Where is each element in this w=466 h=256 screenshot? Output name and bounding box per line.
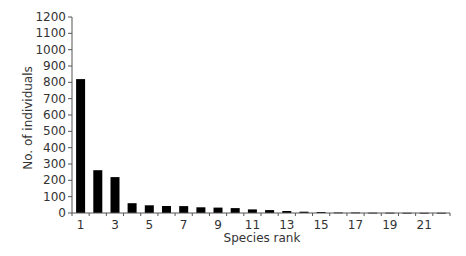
y-tick-label: 800 [43, 75, 66, 89]
bar-rank-7 [179, 206, 188, 213]
bar-rank-6 [162, 206, 171, 213]
x-tick-label: 17 [348, 218, 363, 232]
bar-rank-4 [128, 203, 137, 213]
x-tick-label: 3 [111, 218, 119, 232]
bar-rank-10 [231, 208, 240, 213]
x-axis: 13579111315171921 [72, 213, 450, 232]
x-tick-label: 9 [214, 218, 222, 232]
x-tick-label: 1 [77, 218, 85, 232]
x-tick-label: 13 [279, 218, 294, 232]
y-tick-label: 300 [43, 157, 66, 171]
y-tick-label: 1100 [35, 26, 66, 40]
y-tick-label: 600 [43, 108, 66, 122]
bar-rank-5 [145, 205, 154, 213]
y-tick-label: 100 [43, 190, 66, 204]
y-tick-label: 900 [43, 59, 66, 73]
x-tick-label: 5 [145, 218, 153, 232]
x-tick-label: 7 [180, 218, 188, 232]
bars [76, 79, 446, 214]
x-tick-label: 21 [417, 218, 432, 232]
bar-rank-3 [111, 177, 120, 213]
rank-abundance-chart: 0100200300400500600700800900100011001200… [0, 0, 466, 256]
y-axis: 0100200300400500600700800900100011001200 [35, 10, 72, 220]
x-axis-title: Species rank [224, 231, 301, 245]
y-tick-label: 200 [43, 173, 66, 187]
y-tick-label: 1200 [35, 10, 66, 24]
bar-rank-8 [196, 207, 205, 213]
x-tick-label: 11 [245, 218, 260, 232]
bar-rank-1 [76, 79, 85, 213]
y-tick-label: 0 [58, 206, 66, 220]
x-tick-label: 15 [313, 218, 328, 232]
y-axis-title: No. of individuals [21, 66, 35, 170]
bar-rank-2 [93, 170, 102, 213]
bar-rank-11 [248, 209, 257, 213]
bar-rank-9 [214, 208, 223, 213]
y-tick-label: 1000 [35, 43, 66, 57]
y-tick-label: 400 [43, 141, 66, 155]
y-tick-label: 500 [43, 124, 66, 138]
y-tick-label: 700 [43, 92, 66, 106]
x-tick-label: 19 [382, 218, 397, 232]
